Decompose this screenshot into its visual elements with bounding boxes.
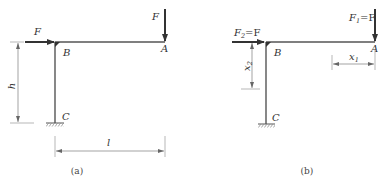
force-label-f1: F1=F xyxy=(348,12,375,25)
dimension-label-h: h xyxy=(6,83,17,89)
caption-a: (a) xyxy=(71,166,83,176)
dimension-l: l xyxy=(55,136,165,157)
figure-b: F2=F F1=F B A C x2 x1 (b) xyxy=(232,9,378,176)
caption-b: (b) xyxy=(301,166,314,176)
point-label-c: C xyxy=(272,112,280,123)
dimension-x1: x1 xyxy=(332,50,375,70)
rigid-joint-icon xyxy=(55,42,60,47)
point-label-a: A xyxy=(370,43,378,54)
fixed-support-icon xyxy=(46,123,64,127)
fixed-support-icon xyxy=(258,124,275,128)
dimension-h: h xyxy=(6,42,34,123)
dimension-label-x1: x1 xyxy=(349,51,359,64)
point-label-c: C xyxy=(62,111,70,122)
dimension-label-l: l xyxy=(107,137,110,148)
point-label-b: B xyxy=(273,47,281,58)
point-label-b: B xyxy=(62,47,70,58)
dimension-x2: x2 xyxy=(241,43,260,89)
force-label-horizontal: F xyxy=(33,26,42,37)
force-label-vertical: F xyxy=(151,11,160,22)
figure-a: F F B A C h l (a) xyxy=(6,9,168,176)
rigid-joint-icon xyxy=(266,42,271,47)
force-label-f2: F2=F xyxy=(233,27,260,40)
diagram-canvas: F F B A C h l (a) xyxy=(0,0,384,186)
point-label-a: A xyxy=(160,43,168,54)
